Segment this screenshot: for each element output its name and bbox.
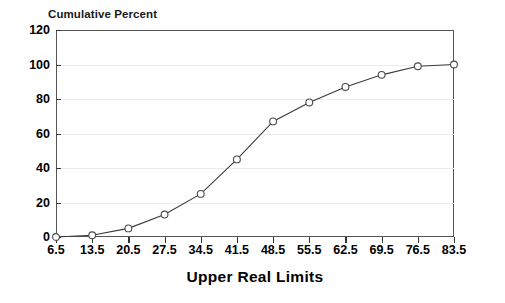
y-axis-tick-labels: 020406080100120	[8, 0, 50, 303]
cumulative-percent-line	[56, 65, 454, 238]
data-point-marker	[234, 156, 241, 163]
y-tick-label: 0	[16, 231, 50, 244]
data-point-marker	[306, 99, 313, 106]
data-point-marker	[270, 118, 277, 125]
y-tick-label: 120	[16, 24, 50, 37]
data-point-marker	[89, 232, 96, 239]
y-tick-label: 20	[16, 197, 50, 210]
data-point-marker	[125, 225, 132, 232]
data-point-marker	[414, 63, 421, 70]
x-axis-title: Upper Real Limits	[56, 268, 454, 286]
chart-title: Cumulative Percent	[48, 8, 157, 20]
data-point-marker	[197, 190, 204, 197]
data-point-marker	[342, 84, 349, 91]
data-point-marker	[53, 234, 60, 241]
cumulative-percent-chart: Cumulative Percent 020406080100120 6.513…	[0, 0, 505, 303]
y-tick-label: 40	[16, 162, 50, 175]
data-point-markers	[53, 61, 458, 240]
y-tick-label: 60	[16, 128, 50, 141]
data-point-marker	[378, 71, 385, 78]
y-tick-label: 80	[16, 93, 50, 106]
data-point-marker	[161, 211, 168, 218]
data-series-layer	[56, 30, 454, 237]
x-tick-label: 83.5	[431, 244, 477, 257]
y-tick-label: 100	[16, 59, 50, 72]
data-point-marker	[451, 61, 458, 68]
